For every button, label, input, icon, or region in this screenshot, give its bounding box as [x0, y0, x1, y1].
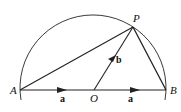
vector-label-b: b — [116, 54, 122, 65]
semicircle-arc — [20, 15, 166, 100]
semicircle-vector-diagram: A B O P a a b — [0, 0, 181, 112]
point-label-a: A — [9, 84, 17, 96]
vector-b-arrowhead — [108, 55, 116, 62]
vector-label-a-left: a — [60, 93, 65, 104]
segment-pb — [133, 27, 166, 90]
vector-label-a-right: a — [128, 93, 133, 104]
point-label-o: O — [90, 92, 98, 104]
point-label-b: B — [170, 84, 177, 96]
point-label-p: P — [132, 12, 140, 24]
